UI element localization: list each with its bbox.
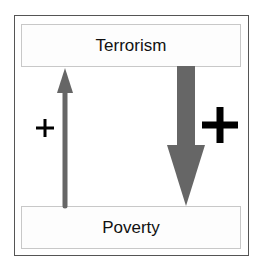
node-poverty-label: Poverty [102, 218, 160, 238]
plus-icon-large [202, 107, 238, 143]
plus-icon-small [36, 119, 54, 137]
node-poverty: Poverty [21, 206, 241, 249]
node-terrorism: Terrorism [21, 24, 241, 67]
node-terrorism-label: Terrorism [96, 36, 167, 56]
